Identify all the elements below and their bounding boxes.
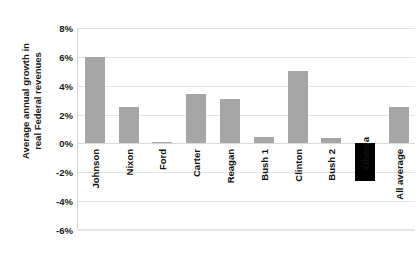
y-axis-tick-label: -2%	[40, 167, 73, 178]
bar[interactable]	[389, 107, 409, 144]
bar[interactable]	[186, 94, 206, 144]
gridline	[78, 230, 415, 231]
bar-group: All average	[382, 28, 416, 230]
x-axis-category-label: Reagan	[225, 149, 236, 183]
y-axis-title-line-1: Average annual growth in	[20, 43, 32, 159]
x-axis-category-label: Bush 1	[259, 149, 270, 181]
x-axis-category-label: Bush 2	[326, 149, 337, 181]
bar-group: Clinton	[281, 28, 315, 230]
y-axis-tick-label: 4%	[40, 80, 73, 91]
x-axis-category-label: Carter	[191, 149, 202, 177]
y-axis-tick-label: -6%	[40, 225, 73, 236]
y-axis-tick-label: 6%	[40, 51, 73, 62]
bar-group: Johnson	[78, 28, 112, 230]
x-axis-category-label: Nixon	[124, 149, 135, 175]
x-axis-category-label: Obama	[360, 137, 371, 169]
bar[interactable]	[119, 107, 139, 143]
bar[interactable]	[288, 71, 308, 144]
bar[interactable]	[85, 57, 105, 144]
axis-bottom-line	[77, 229, 415, 230]
bar[interactable]	[220, 99, 240, 144]
bar-series: JohnsonNixonFordCarterReaganBush 1Clinto…	[78, 28, 415, 230]
y-axis-tick-label: -4%	[40, 196, 73, 207]
bar-group: Bush 2	[315, 28, 349, 230]
cut-off-title-text	[52, 0, 172, 8]
bar-group: Bush 1	[247, 28, 281, 230]
y-axis-tick-label: 2%	[40, 109, 73, 120]
bar[interactable]	[152, 142, 172, 143]
y-axis-tick-label: 0%	[40, 138, 73, 149]
bar-group: Carter	[179, 28, 213, 230]
bar-group: Nixon	[112, 28, 146, 230]
x-axis-category-label: All average	[394, 149, 405, 200]
bar-group: Ford	[146, 28, 180, 230]
plot-area: JohnsonNixonFordCarterReaganBush 1Clinto…	[77, 28, 415, 230]
y-axis-tick-labels: 8%6%4%2%0%-2%-4%-6%	[40, 28, 73, 230]
bar[interactable]	[254, 137, 274, 143]
bar-group: Obama	[348, 28, 382, 230]
bar-chart: Average annual growth in real Federal re…	[0, 0, 418, 256]
bar[interactable]	[321, 138, 341, 143]
x-axis-category-label: Clinton	[293, 149, 304, 182]
y-axis-tick-label: 8%	[40, 23, 73, 34]
x-axis-category-label: Ford	[157, 149, 168, 170]
x-axis-category-label: Johnson	[90, 149, 101, 189]
bar-group: Reagan	[213, 28, 247, 230]
